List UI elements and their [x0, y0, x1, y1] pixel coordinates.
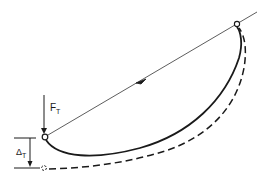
deflection-label: ΔT — [16, 147, 27, 159]
chord-direction-arrow-icon — [136, 79, 146, 84]
diagram-canvas: FT ΔT — [0, 0, 269, 183]
displaced-node — [42, 166, 47, 171]
left-node — [42, 134, 48, 140]
solid-sag-curve — [46, 27, 241, 156]
force-label: FT — [50, 102, 61, 115]
force-arrow-head-icon — [41, 128, 47, 134]
deflection-arrow-head-icon — [28, 161, 33, 167]
chord-line — [48, 12, 257, 135]
right-node — [234, 21, 239, 26]
